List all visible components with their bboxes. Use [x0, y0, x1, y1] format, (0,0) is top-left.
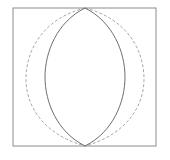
figure-container [0, 0, 170, 160]
diagram-canvas [0, 0, 170, 160]
plot-frame [13, 8, 156, 146]
